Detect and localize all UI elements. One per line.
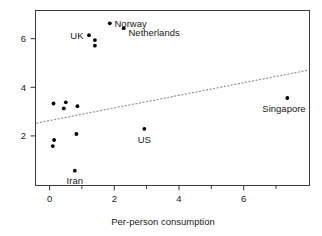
data-point	[64, 100, 68, 104]
scatter-plot: 6 4 2 0 2 4 6	[0, 0, 322, 236]
point-label-uk: UK	[70, 30, 84, 41]
data-point	[62, 107, 66, 111]
data-point	[93, 44, 97, 48]
point-label-us: US	[138, 134, 151, 145]
chart-page: 6 4 2 0 2 4 6	[0, 0, 322, 236]
y-tick-label-4: 4	[21, 82, 26, 93]
x-tick-label-4: 4	[176, 193, 181, 204]
y-tick-label-2: 2	[21, 130, 26, 141]
x-axis: 0 2 4 6	[47, 186, 276, 204]
x-tick-label-0: 0	[47, 193, 52, 204]
data-points	[51, 21, 289, 172]
x-tick-label-6: 6	[241, 193, 246, 204]
y-axis: 6 4 2	[21, 33, 36, 141]
data-point	[51, 144, 55, 148]
data-point	[75, 132, 79, 136]
data-point-us	[142, 127, 146, 131]
trend-line	[37, 70, 309, 123]
data-point-norway	[108, 21, 112, 25]
data-point-iran	[73, 169, 77, 173]
point-label-netherlands: Netherlands	[129, 27, 180, 38]
data-point-singapore	[285, 96, 289, 100]
point-labels: Norway Netherlands UK Singapore US Iran	[67, 18, 306, 187]
data-point	[76, 104, 80, 108]
x-axis-title: Per-person consumption	[111, 216, 215, 227]
data-point	[52, 102, 56, 106]
data-point	[52, 138, 56, 142]
point-label-singapore: Singapore	[262, 103, 305, 114]
data-point	[93, 38, 97, 42]
x-tick-label-2: 2	[112, 193, 117, 204]
y-tick-label-6: 6	[21, 33, 26, 44]
point-label-iran: Iran	[67, 175, 83, 186]
data-point-uk	[87, 33, 91, 37]
